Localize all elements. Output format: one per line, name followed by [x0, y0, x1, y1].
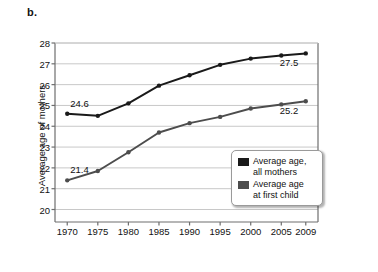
data-point [218, 115, 222, 119]
data-point [96, 169, 100, 173]
legend-label-all-mothers: Average age, all mothers [253, 156, 306, 177]
plot-area [0, 0, 378, 272]
data-label: 24.6 [70, 98, 89, 109]
data-point [218, 63, 222, 67]
data-point [65, 112, 69, 116]
data-point [249, 106, 253, 110]
data-point [187, 73, 191, 77]
data-label: 25.2 [280, 105, 299, 116]
data-point [249, 56, 253, 60]
data-point [65, 178, 69, 182]
data-point [304, 51, 308, 55]
data-point [157, 83, 161, 87]
data-point [187, 121, 191, 125]
legend-label-first-child: Average age at first child [253, 179, 304, 200]
legend-entry-all-mothers: Average age, all mothers [238, 156, 317, 177]
chart-legend: Average age, all mothers Average age at … [231, 150, 323, 206]
chart-figure: b. Average age of mothers 20212223242526… [0, 0, 378, 272]
data-label: 27.5 [280, 57, 299, 68]
data-point [96, 114, 100, 118]
data-point [157, 130, 161, 134]
legend-swatch-all-mothers [238, 158, 249, 166]
legend-entry-first-child: Average age at first child [238, 179, 317, 200]
data-point [126, 150, 130, 154]
legend-swatch-first-child [238, 181, 249, 189]
data-point [126, 101, 130, 105]
data-label: 21.4 [70, 164, 89, 175]
data-point [304, 99, 308, 103]
